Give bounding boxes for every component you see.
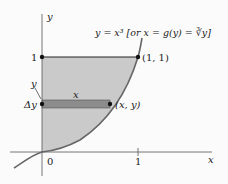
point-x-y (108, 102, 112, 106)
point-label-x-y: (x, y) (115, 100, 140, 110)
y-axis-label: y (47, 12, 53, 22)
point-0-1 (40, 55, 44, 59)
origin-label: 0 (47, 157, 53, 167)
strip-width-label: x (73, 90, 79, 100)
horizontal-strip (42, 100, 110, 108)
x-tick-label: 1 (135, 157, 141, 167)
x-axis-label: x (208, 155, 214, 165)
y-tick-label: 1 (31, 53, 37, 63)
delta-y-label: Δy (24, 100, 37, 110)
figure: y y = x³ [or x = g(y) = ∛y] 1 (1, 1) y x… (0, 0, 228, 184)
point-label-1-1: (1, 1) (142, 53, 169, 63)
point-strip-left (40, 102, 44, 106)
curve-label: y = x³ [or x = g(y) = ∛y] (95, 28, 211, 38)
strip-y-label: y (31, 79, 37, 89)
point-1-1 (136, 55, 140, 59)
y-label-leader (35, 88, 41, 99)
